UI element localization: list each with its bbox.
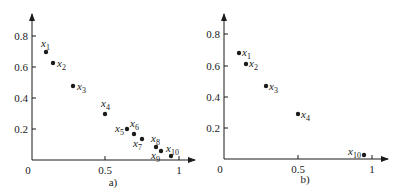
point-labels-b: x1 x2 x3 x4 x10 [241, 46, 361, 160]
svg-text:x2: x2 [56, 57, 66, 72]
panel-a-caption: a) [109, 176, 118, 189]
figure: 0.8 0.6 0.4 0.2 0 0.5 1 x1 x2 x3 x4 x5 x… [0, 0, 407, 194]
point-x1 [237, 51, 241, 55]
point-x5 [125, 127, 129, 131]
y-tick-0.4: 0.4 [14, 92, 28, 104]
y-tick-0.4: 0.4 [206, 91, 220, 103]
svg-text:x3: x3 [268, 80, 278, 95]
point-labels-a: x1 x2 x3 x4 x5 x6 x7 x8 x9 x10 [40, 37, 179, 164]
point-x4 [103, 112, 107, 116]
x-tick-1: 1 [176, 164, 182, 176]
y-tick-0.2: 0.2 [206, 122, 220, 134]
point-x6 [132, 132, 136, 136]
point-x2 [244, 62, 248, 66]
svg-text:x10: x10 [165, 142, 179, 157]
point-x9 [159, 149, 163, 153]
y-tick-0.8: 0.8 [14, 30, 28, 42]
svg-text:x4: x4 [100, 97, 110, 112]
point-x3 [264, 84, 268, 88]
y-tick-0.8: 0.8 [206, 28, 220, 40]
point-x2 [51, 61, 55, 65]
y-tick-0.6: 0.6 [206, 60, 220, 72]
svg-text:x6: x6 [129, 117, 139, 132]
panel-b: 0.8 0.6 0.4 0.2 0 0.5 1 x1 x2 x3 x4 x10 … [206, 14, 388, 186]
panel-b-caption: b) [300, 173, 310, 186]
svg-text:x2: x2 [248, 57, 258, 72]
svg-text:x8: x8 [150, 132, 160, 147]
svg-text:x10: x10 [347, 145, 361, 160]
svg-text:x9: x9 [150, 149, 160, 164]
point-x4 [296, 112, 300, 116]
svg-text:x4: x4 [300, 108, 310, 123]
y-tick-0.6: 0.6 [14, 61, 28, 73]
point-x10 [362, 153, 366, 157]
x-tick-1: 1 [369, 163, 375, 175]
svg-text:x1: x1 [40, 37, 50, 52]
x-tick-0: 0 [25, 164, 31, 176]
panel-a: 0.8 0.6 0.4 0.2 0 0.5 1 x1 x2 x3 x4 x5 x… [14, 14, 195, 189]
svg-text:x3: x3 [76, 80, 86, 95]
x-tick-0.5: 0.5 [98, 164, 112, 176]
point-x3 [71, 84, 75, 88]
svg-text:x5: x5 [114, 122, 124, 137]
y-tick-0.2: 0.2 [14, 123, 28, 135]
x-tick-0: 0 [217, 163, 223, 175]
point-x7 [140, 137, 144, 141]
